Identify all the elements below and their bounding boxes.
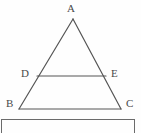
vertex-label-b: B [6,98,13,109]
vertex-label-a: A [67,3,75,14]
geometry-figure-container: A D E B C [0,0,141,133]
vertex-label-c: C [126,98,133,109]
triangle-abc [19,19,121,109]
vertex-label-d: D [21,68,29,79]
segment-ab [19,19,73,109]
segment-ac [73,19,121,109]
bottom-panel-border [1,120,135,134]
vertex-label-e: E [111,68,118,79]
